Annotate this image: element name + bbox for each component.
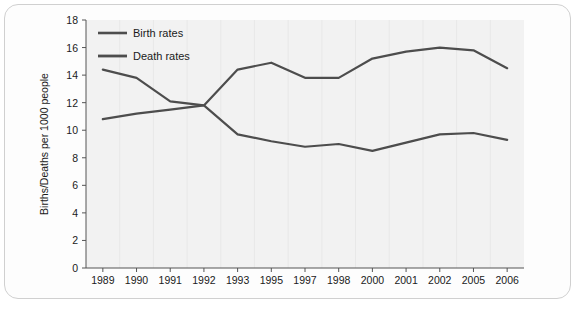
x-tick-label: 1989 — [91, 274, 115, 286]
x-tick-label: 1993 — [226, 274, 250, 286]
x-tick-label: 2006 — [495, 274, 519, 286]
y-tick-label: 12 — [66, 97, 78, 109]
y-axis-ticks: 024681012141618 — [66, 14, 86, 274]
y-tick-label: 18 — [66, 14, 78, 26]
line-chart: 024681012141618 198919901991199219931995… — [0, 0, 583, 310]
y-tick-label: 16 — [66, 42, 78, 54]
y-tick-label: 8 — [72, 152, 78, 164]
y-axis-title: Births/Deaths per 1000 people — [38, 73, 50, 215]
x-tick-label: 1992 — [192, 274, 216, 286]
legend-label-death-rates: Death rates — [133, 50, 190, 62]
x-tick-label: 2002 — [428, 274, 452, 286]
x-tick-label: 1995 — [260, 274, 284, 286]
y-tick-label: 4 — [72, 207, 78, 219]
x-tick-label: 1998 — [327, 274, 351, 286]
x-tick-label: 2000 — [361, 274, 385, 286]
y-tick-label: 2 — [72, 234, 78, 246]
x-axis-ticks: 1989199019911992199319951997199820002001… — [91, 268, 519, 286]
y-tick-label: 14 — [66, 69, 78, 81]
y-tick-label: 10 — [66, 124, 78, 136]
y-tick-label: 0 — [72, 262, 78, 274]
x-tick-label: 2001 — [394, 274, 418, 286]
x-tick-label: 2005 — [462, 274, 486, 286]
legend-label-birth-rates: Birth rates — [133, 27, 184, 39]
chart-svg: 024681012141618 198919901991199219931995… — [0, 0, 583, 310]
x-tick-label: 1990 — [125, 274, 149, 286]
x-tick-label: 1991 — [159, 274, 183, 286]
x-tick-label: 1997 — [293, 274, 317, 286]
y-tick-label: 6 — [72, 179, 78, 191]
